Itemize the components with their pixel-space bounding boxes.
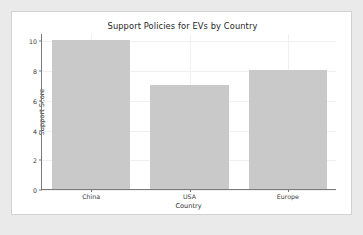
y-axis-tick-mark [39,100,42,101]
bar-china[interactable] [52,40,131,189]
y-axis-tick-mark [39,190,42,191]
plot-inner: 0246810ChinaUSAEurope [42,34,336,189]
x-axis-tick-label: USA [183,193,196,200]
y-axis-tick-label: 4 [33,127,37,134]
x-axis-tick-mark [288,189,289,192]
bar-usa[interactable] [150,85,229,189]
y-axis-tick-mark [39,160,42,161]
x-axis-label: Country [41,202,336,210]
y-axis-tick-label: 8 [33,68,37,75]
plot-area: 0246810ChinaUSAEurope [41,34,336,190]
x-axis-tick-mark [190,189,191,192]
bar-europe[interactable] [249,70,328,189]
x-axis-tick-label: China [82,193,100,200]
y-axis-tick-label: 10 [29,38,37,45]
x-axis-tick-mark [91,189,92,192]
x-axis-tick-label: Europe [277,193,299,200]
y-axis-tick-mark [39,130,42,131]
y-axis-tick-label: 2 [33,157,37,164]
y-axis-tick-label: 6 [33,97,37,104]
y-axis-tick-mark [39,71,42,72]
figure-panel: Support Policies for EVs by Country Supp… [11,11,352,215]
y-axis-tick-mark [39,41,42,42]
chart-title: Support Policies for EVs by Country [12,21,353,31]
y-axis-tick-label: 0 [33,187,37,194]
